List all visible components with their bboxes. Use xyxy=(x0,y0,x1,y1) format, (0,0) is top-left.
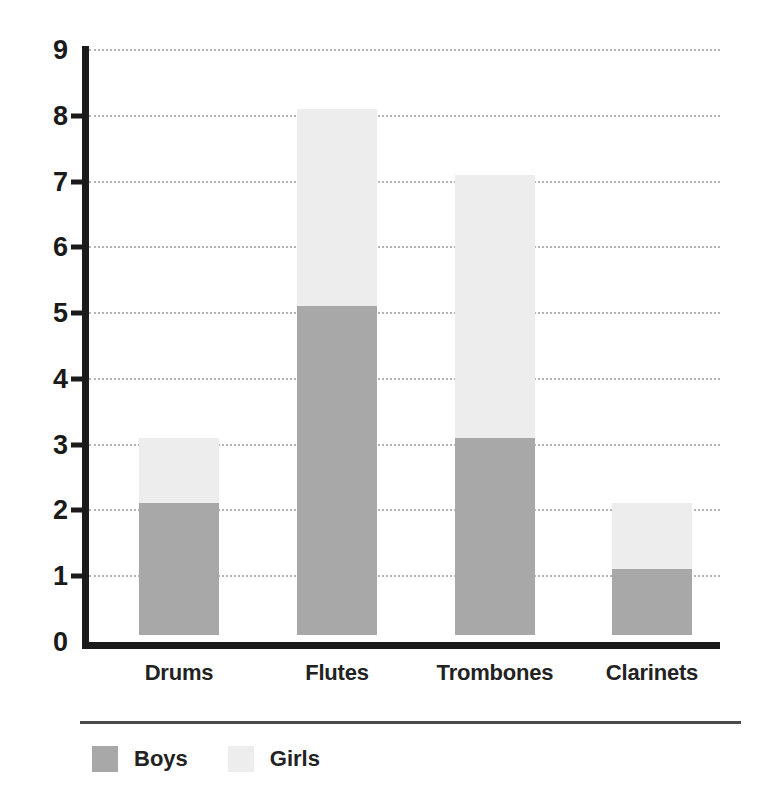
y-axis-tick-mark xyxy=(71,376,84,381)
y-axis-tick-label: 0 xyxy=(53,629,68,656)
bar-segment-boys[interactable] xyxy=(297,306,377,635)
legend-label: Boys xyxy=(134,748,188,770)
legend-swatch-girls xyxy=(228,746,254,772)
x-axis-tick-label: Clarinets xyxy=(572,662,732,684)
y-axis-tick-mark xyxy=(71,311,84,316)
legend-separator xyxy=(80,721,741,724)
x-axis-tick-label: Flutes xyxy=(257,662,417,684)
bar-segment-boys[interactable] xyxy=(612,569,692,635)
x-axis-labels: DrumsFlutesTrombonesClarinets xyxy=(82,662,720,696)
y-axis-tick-mark xyxy=(71,574,84,579)
y-axis-tick-mark xyxy=(71,245,84,250)
x-axis-tick-label: Drums xyxy=(99,662,259,684)
y-axis-tick-label: 4 xyxy=(53,365,68,392)
y-axis-tick-label: 8 xyxy=(53,102,68,129)
bar-segment-girls[interactable] xyxy=(297,109,377,306)
y-axis-tick-label: 2 xyxy=(53,497,68,524)
bar-segment-boys[interactable] xyxy=(455,438,535,635)
bar-segment-boys[interactable] xyxy=(139,503,219,635)
bar-segment-girls[interactable] xyxy=(139,438,219,504)
y-axis-spine xyxy=(82,46,89,645)
x-axis-spine xyxy=(82,642,720,649)
y-axis-tick-mark xyxy=(71,179,84,184)
plot-area: 0123456789 xyxy=(82,46,720,649)
x-axis-tick-label: Trombones xyxy=(415,662,575,684)
bar-segment-girls[interactable] xyxy=(455,175,535,438)
legend-item[interactable]: Girls xyxy=(228,746,320,772)
legend-item[interactable]: Boys xyxy=(92,746,188,772)
y-axis-tick-label: 6 xyxy=(53,234,68,261)
stacked-bar-chart: 0123456789 DrumsFlutesTrombonesClarinets… xyxy=(0,0,766,809)
y-axis-tick-label: 5 xyxy=(53,300,68,327)
y-axis-tick-mark xyxy=(71,508,84,513)
bar-segment-girls[interactable] xyxy=(612,503,692,569)
legend: BoysGirls xyxy=(92,746,320,772)
y-axis-tick-label: 1 xyxy=(53,563,68,590)
y-axis-tick-label: 7 xyxy=(53,168,68,195)
y-axis-tick-label: 9 xyxy=(53,37,68,64)
y-axis-tick-label: 3 xyxy=(53,431,68,458)
bars-layer xyxy=(89,46,720,642)
y-axis-tick-mark xyxy=(71,113,84,118)
legend-swatch-boys xyxy=(92,746,118,772)
legend-label: Girls xyxy=(270,748,320,770)
y-axis-tick-mark xyxy=(71,442,84,447)
